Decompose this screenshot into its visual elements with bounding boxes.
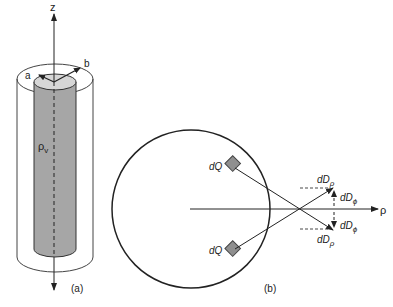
charge-element-top	[225, 156, 241, 172]
radius-a-label: a	[25, 70, 31, 81]
dphi-bottom-label: dDϕ	[340, 220, 358, 234]
drho-bottom-label: dDρ	[317, 234, 335, 248]
figure-canvas: z a b ρv (a) ρ dQ dQ dDρ dDϕ dDϕ dDρ (b)	[0, 0, 393, 307]
panel-a-coaxial-cylinder: z a b ρv (a)	[17, 1, 93, 294]
inner-cylinder-body	[34, 82, 76, 257]
panel-b-caption: (b)	[264, 283, 276, 294]
charge-top-label: dQ	[209, 161, 223, 172]
dphi-top-label: dDϕ	[340, 192, 358, 206]
panel-b-cross-section: ρ dQ dQ dDρ dDϕ dDϕ dDρ (b)	[112, 130, 386, 294]
panel-a-caption: (a)	[71, 283, 83, 294]
z-axis-label: z	[50, 1, 56, 13]
drho-top-label: dDρ	[317, 174, 335, 188]
charge-bottom-label: dQ	[209, 245, 223, 256]
charge-element-bottom	[225, 241, 241, 257]
rho-axis-label: ρ	[380, 204, 386, 216]
radius-b-label: b	[84, 58, 90, 69]
